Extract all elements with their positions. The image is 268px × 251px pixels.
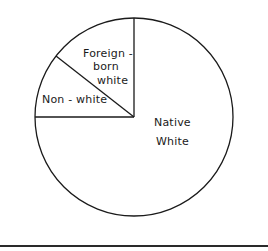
label-non-white: Non - white: [42, 94, 107, 105]
pie-chart: [0, 0, 268, 251]
label-foreign-born-line3: white: [97, 75, 128, 86]
label-native-white-line2: White: [156, 136, 189, 147]
bottom-rule: [0, 245, 268, 247]
label-foreign-born-line1: Foreign -: [83, 48, 133, 59]
label-foreign-born-line2: born: [93, 61, 119, 72]
label-native-white-line1: Native: [154, 117, 191, 128]
